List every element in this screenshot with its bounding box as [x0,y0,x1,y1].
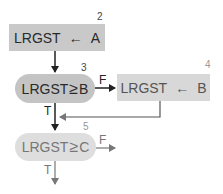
decision-pill-compare-b: LRGST ≥ B [15,74,95,103]
assign-arrow-icon: ← [69,30,83,46]
variable-label: LRGST [22,139,69,155]
step-number-2: 2 [97,11,103,22]
process-box-assign-a: LRGST ← A [9,24,105,51]
process-box-assign-b: LRGST ← B [117,74,210,101]
greater-equal-icon: ≥ [69,138,78,156]
operand-label: C [79,139,89,155]
decision-pill-compare-c: LRGST ≥ C [15,133,96,161]
variable-label: LRGST [22,81,69,97]
variable-label: LRGST [14,30,61,46]
step-number-5: 5 [83,121,89,132]
operand-label: B [79,81,88,97]
false-label: F [99,133,106,147]
assign-arrow-icon: ← [175,80,189,96]
greater-equal-icon: ≥ [69,80,78,98]
true-label: T [44,163,51,177]
true-label: T [44,104,51,118]
step-number-3: 3 [81,62,87,73]
operand-label: A [91,30,100,46]
variable-label: LRGST [120,80,167,96]
false-label: F [99,73,106,87]
step-number-4: 4 [205,59,211,70]
operand-label: B [197,80,206,96]
